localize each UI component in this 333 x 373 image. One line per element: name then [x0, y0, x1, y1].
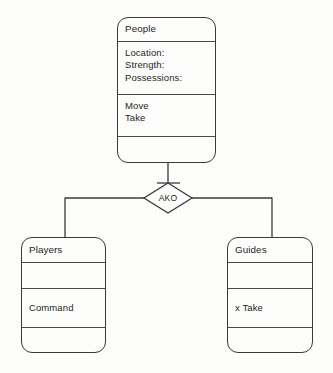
body-compartment-players: Command — [22, 289, 105, 328]
blank-compartment-guides — [228, 263, 312, 289]
class-name-compartment-guides: Guides — [228, 238, 312, 263]
empty-compartment-guides — [228, 328, 312, 353]
class-box-people[interactable]: People Location: Strength: Possessions: … — [117, 17, 216, 163]
empty-compartment-players — [22, 328, 105, 353]
class-box-guides[interactable]: Guides x Take — [227, 237, 313, 353]
class-name-guides: Guides — [235, 244, 305, 256]
attribute-item: Possessions: — [125, 72, 208, 84]
body-item: x Take — [235, 302, 305, 314]
class-box-players[interactable]: Players Command — [21, 237, 106, 353]
class-name-compartment-players: Players — [22, 238, 105, 263]
class-name-compartment-people: People — [118, 18, 215, 42]
methods-compartment-people: Move Take — [118, 95, 215, 137]
blank-compartment-players — [22, 263, 105, 289]
method-item: Take — [125, 112, 208, 124]
attribute-item: Location: — [125, 47, 208, 59]
empty-compartment-people — [118, 137, 215, 163]
ako-relationship-node[interactable]: AKO — [144, 182, 192, 213]
class-diagram-canvas: People Location: Strength: Possessions: … — [0, 0, 333, 373]
class-name-players: Players — [29, 244, 98, 256]
attribute-item: Strength: — [125, 59, 208, 71]
class-name-people: People — [125, 23, 208, 35]
body-item: Command — [29, 302, 98, 314]
attributes-compartment-people: Location: Strength: Possessions: — [118, 42, 215, 95]
ako-label: AKO — [144, 182, 192, 213]
body-compartment-guides: x Take — [228, 289, 312, 328]
method-item: Move — [125, 100, 208, 112]
